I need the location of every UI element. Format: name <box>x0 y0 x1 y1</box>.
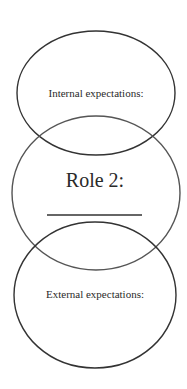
role-title: Role 2: <box>66 169 124 191</box>
external-expectations-label: External expectations: <box>46 288 144 300</box>
internal-expectations-label: Internal expectations: <box>49 87 144 99</box>
venn-diagram: Internal expectations: Role 2: External … <box>0 0 187 389</box>
middle-circle <box>12 116 180 270</box>
